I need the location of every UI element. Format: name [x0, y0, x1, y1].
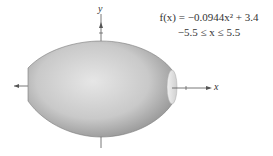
- function-definition: f(x) = −0.0944x² + 3.4 −5.5 ≤ x ≤ 5.5: [150, 10, 268, 40]
- y-axis-label: y: [98, 3, 102, 14]
- function-domain: −5.5 ≤ x ≤ 5.5: [150, 25, 268, 40]
- end-cap: [167, 70, 177, 104]
- function-equation: f(x) = −0.0944x² + 3.4: [150, 10, 268, 25]
- solid-body: [28, 41, 172, 137]
- y-axis-positive: [99, 14, 103, 41]
- x-axis-negative: [14, 84, 28, 88]
- x-axis-label: x: [214, 81, 218, 92]
- x-axis-positive: [172, 86, 212, 90]
